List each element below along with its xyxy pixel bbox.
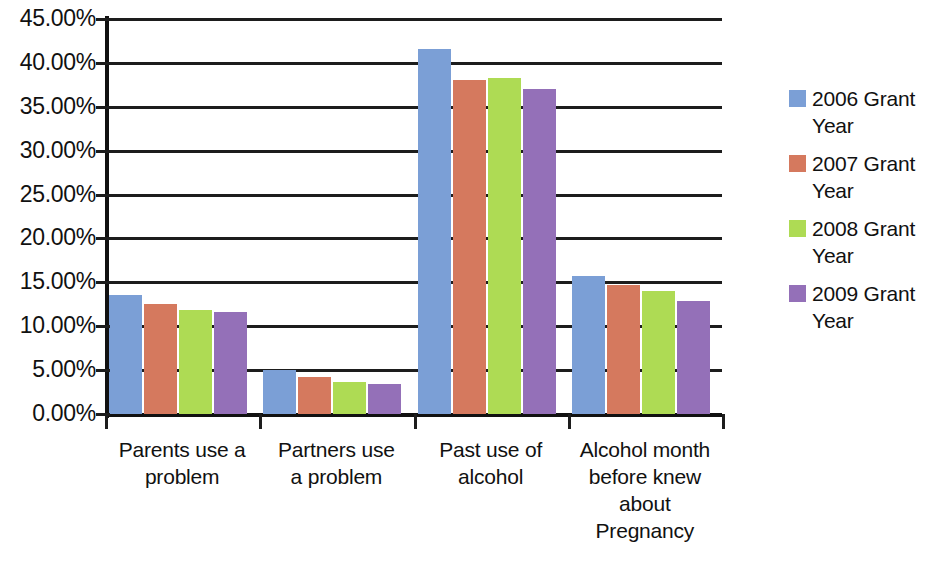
plot-area	[105, 19, 722, 414]
category-label-line: Pregnancy	[560, 517, 730, 544]
category-label-line: before knew	[560, 463, 730, 490]
gridline	[105, 281, 722, 284]
gridline	[105, 106, 722, 109]
x-axis-tick-mark	[105, 414, 108, 429]
x-axis-tick-mark	[568, 414, 571, 429]
bar[interactable]	[368, 384, 401, 414]
category-label-line: alcohol	[406, 463, 576, 490]
x-axis-tick-mark	[722, 414, 725, 429]
y-axis-tick-labels: 0.00%5.00%10.00%15.00%20.00%25.00%30.00%…	[0, 0, 96, 430]
category-label-line: Alcohol month	[560, 436, 730, 463]
y-axis-tick-label: 0.00%	[0, 402, 96, 425]
y-axis-tick-label: 35.00%	[0, 95, 96, 118]
legend-item[interactable]: 2006 Grant Year	[789, 85, 933, 139]
legend-label: 2007 Grant Year	[812, 150, 933, 204]
legend-label: 2009 Grant Year	[812, 280, 933, 334]
x-axis-category-label: Parents use aproblem	[97, 436, 267, 490]
bar[interactable]	[418, 49, 451, 414]
x-axis-tick-mark	[414, 414, 417, 429]
bar[interactable]	[179, 310, 212, 414]
legend-color-swatch-icon	[789, 155, 806, 172]
gridline	[105, 18, 722, 21]
bar[interactable]	[144, 304, 177, 414]
bar[interactable]	[642, 291, 675, 414]
category-label-line: Partners use	[251, 436, 421, 463]
y-axis-tick-label: 25.00%	[0, 183, 96, 206]
bar[interactable]	[677, 301, 710, 414]
y-axis-tick-label: 5.00%	[0, 358, 96, 381]
y-axis-tick-mark	[96, 106, 110, 109]
category-label-line: about	[560, 490, 730, 517]
y-axis-tick-label: 40.00%	[0, 51, 96, 74]
category-label-line: Parents use a	[97, 436, 267, 463]
chart-legend: 2006 Grant Year2007 Grant Year2008 Grant…	[789, 85, 933, 345]
y-axis-tick-label: 45.00%	[0, 7, 96, 30]
legend-item[interactable]: 2009 Grant Year	[789, 280, 933, 334]
y-axis-tick-mark	[96, 194, 110, 197]
category-label-line: Past use of	[406, 436, 576, 463]
legend-item[interactable]: 2007 Grant Year	[789, 150, 933, 204]
legend-item[interactable]: 2008 Grant Year	[789, 215, 933, 269]
x-axis-category-label: Past use ofalcohol	[406, 436, 576, 490]
bar[interactable]	[109, 295, 142, 414]
gridline	[105, 62, 722, 65]
y-axis-tick-mark	[96, 62, 110, 65]
bar[interactable]	[572, 276, 605, 414]
legend-label: 2008 Grant Year	[812, 215, 933, 269]
category-label-line: problem	[97, 463, 267, 490]
x-axis-category-label: Alcohol monthbefore knewaboutPregnancy	[560, 436, 730, 544]
legend-color-swatch-icon	[789, 90, 806, 107]
bar[interactable]	[263, 370, 296, 414]
gridline	[105, 150, 722, 153]
legend-color-swatch-icon	[789, 285, 806, 302]
bar[interactable]	[214, 312, 247, 414]
gridline	[105, 237, 722, 240]
y-axis-tick-mark	[96, 281, 110, 284]
y-axis-tick-label: 30.00%	[0, 139, 96, 162]
y-axis-tick-mark	[96, 237, 110, 240]
x-axis-tick-mark	[259, 414, 262, 429]
y-axis-tick-mark	[96, 369, 110, 372]
bar[interactable]	[298, 377, 331, 414]
bar[interactable]	[607, 285, 640, 414]
y-axis-tick-mark	[96, 18, 110, 21]
y-axis-tick-mark	[96, 150, 110, 153]
y-axis-tick-label: 10.00%	[0, 314, 96, 337]
bar[interactable]	[333, 382, 366, 414]
category-label-line: a problem	[251, 463, 421, 490]
gridline	[105, 194, 722, 197]
y-axis-tick-mark	[96, 325, 110, 328]
x-axis-category-label: Partners usea problem	[251, 436, 421, 490]
legend-color-swatch-icon	[789, 220, 806, 237]
bar[interactable]	[453, 80, 486, 414]
legend-label: 2006 Grant Year	[812, 85, 933, 139]
y-axis-tick-label: 20.00%	[0, 226, 96, 249]
bar[interactable]	[523, 89, 556, 414]
bar-chart: 0.00%5.00%10.00%15.00%20.00%25.00%30.00%…	[0, 0, 933, 561]
y-axis-tick-mark	[96, 413, 110, 416]
y-axis-tick-label: 15.00%	[0, 270, 96, 293]
bar[interactable]	[488, 78, 521, 414]
